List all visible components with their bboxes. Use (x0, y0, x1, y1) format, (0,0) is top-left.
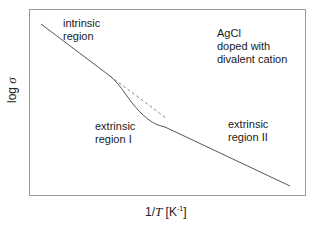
extrinsic-region-2-label: extrinsic region II (228, 118, 268, 144)
x-axis-label: 1/T [K-1] (145, 204, 187, 220)
y-axis-label: log σ (4, 77, 20, 103)
extrinsic-region-1-label: extrinsic region I (95, 120, 135, 146)
sample-description-label: AgCl doped with divalent cation (217, 27, 287, 66)
intrinsic-region-label: intrinsic region (63, 17, 100, 43)
extrinsic-extrapolation-dashed-line (110, 76, 166, 118)
